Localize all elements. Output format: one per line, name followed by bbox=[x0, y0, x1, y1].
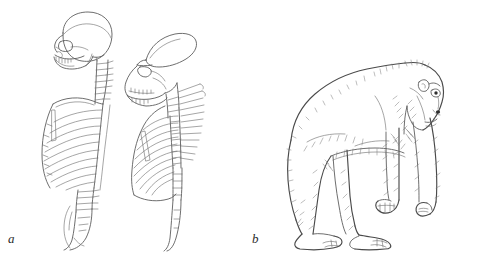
ape-cervical-vertebrae bbox=[166, 83, 179, 118]
ape-thoracic-cage bbox=[132, 106, 178, 201]
panel-a-label: a bbox=[8, 232, 15, 245]
gorilla-fur-hatching bbox=[287, 60, 440, 230]
panel-b-artwork bbox=[247, 0, 494, 262]
human-thoracic-cage bbox=[42, 98, 110, 190]
ape-axial-skeleton bbox=[125, 33, 205, 251]
human-cervical-vertebrae bbox=[95, 60, 113, 104]
panel-a: a bbox=[0, 0, 247, 262]
human-lumbar-vertebrae bbox=[76, 188, 99, 212]
panel-b: b bbox=[247, 0, 494, 262]
human-axial-skeleton bbox=[42, 12, 113, 250]
ape-lumbar-sacrum bbox=[164, 168, 182, 251]
comparative-anatomy-figure: a bbox=[0, 0, 494, 262]
ape-spinous-processes bbox=[178, 84, 205, 160]
panel-b-label: b bbox=[252, 232, 259, 245]
panel-a-artwork bbox=[0, 0, 247, 262]
human-sacrum-coccyx bbox=[64, 209, 92, 250]
gorilla-knuckle-walking bbox=[287, 60, 444, 250]
